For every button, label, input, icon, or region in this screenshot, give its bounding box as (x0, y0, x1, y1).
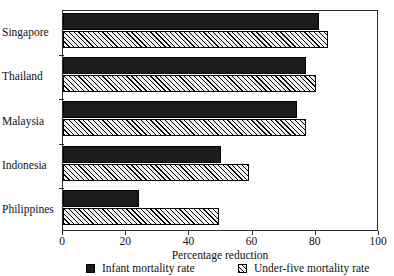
legend-label-infant: Infant mortality rate (102, 262, 195, 275)
bar-under-five-thailand (63, 75, 316, 92)
bar-chart: SingaporeThailandMalaysiaIndonesiaPhilip… (0, 0, 394, 276)
hatched-square-swatch-icon (238, 264, 247, 273)
category-label-philippines: Philippines (2, 203, 60, 215)
bar-infant-malaysia (63, 101, 297, 118)
category-label-malaysia: Malaysia (2, 115, 60, 127)
category-label-thailand: Thailand (2, 70, 60, 82)
bar-infant-singapore (63, 13, 319, 30)
clipped-title-sliver (8, 0, 308, 7)
y-axis-tick (59, 55, 64, 56)
legend-item-under-five-mortality-rate: Under-five mortality rate (238, 262, 369, 275)
x-axis-label-60: 60 (232, 235, 272, 248)
y-axis-tick (59, 188, 64, 189)
bar-infant-thailand (63, 57, 306, 74)
bar-infant-philippines (63, 190, 139, 207)
x-axis-label-80: 80 (295, 235, 335, 248)
x-axis-label-40: 40 (168, 235, 208, 248)
plot-area (62, 10, 378, 231)
bar-under-five-philippines (63, 208, 219, 225)
bar-under-five-malaysia (63, 119, 306, 136)
x-axis-label-100: 100 (358, 235, 394, 248)
bar-group-indonesia (63, 144, 377, 188)
bar-infant-indonesia (63, 146, 221, 163)
x-axis-label-0: 0 (42, 235, 82, 248)
chart-legend: Infant mortality rate Under-five mortali… (0, 262, 394, 276)
x-axis-title: Percentage reduction (62, 249, 378, 262)
legend-item-infant-mortality-rate: Infant mortality rate (86, 262, 195, 275)
y-axis-tick (59, 99, 64, 100)
category-label-indonesia: Indonesia (2, 159, 60, 171)
bar-under-five-indonesia (63, 164, 249, 181)
x-axis-label-20: 20 (105, 235, 145, 248)
bar-group-malaysia (63, 99, 377, 143)
solid-square-swatch-icon (86, 264, 95, 273)
bar-under-five-singapore (63, 31, 328, 48)
category-label-singapore: Singapore (2, 26, 60, 38)
legend-label-under-five: Under-five mortality rate (254, 262, 369, 275)
y-axis-tick (59, 144, 64, 145)
bar-group-philippines (63, 188, 377, 232)
bar-group-thailand (63, 55, 377, 99)
bar-group-singapore (63, 11, 377, 55)
